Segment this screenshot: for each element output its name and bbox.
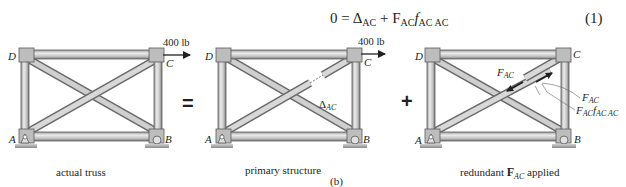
equals-operator: =	[182, 92, 194, 115]
caption-primary-structure: primary structure	[245, 164, 321, 176]
force-label: FAC	[496, 66, 515, 80]
equation-equals: =	[341, 10, 349, 26]
gap-dashed-line	[310, 75, 323, 83]
joint-label-A: A	[204, 133, 212, 145]
equation-number: (1)	[585, 10, 603, 27]
gusset-plate-D	[19, 48, 34, 62]
load-label: 400 lb	[163, 37, 190, 48]
caption-actual-truss: actual truss	[56, 166, 106, 178]
gusset-plate-C	[556, 48, 571, 62]
joint-label-A: A	[414, 134, 422, 146]
bottom-member-AB	[219, 132, 360, 141]
right-member-CB	[352, 50, 360, 141]
actual-truss-figure: 400 lb D C A B	[0, 30, 200, 160]
joint-label-C: C	[364, 56, 372, 68]
joint-label-B: B	[363, 133, 370, 145]
joint-label-D: D	[204, 50, 213, 62]
top-member-DC	[428, 50, 569, 59]
delta-symbol: Δ	[353, 10, 363, 26]
joint-label-B: B	[165, 133, 172, 145]
joint-label-C: C	[573, 48, 581, 60]
right-member-CB	[561, 50, 569, 141]
left-member-DA	[427, 50, 435, 141]
force-subscript: AC	[401, 17, 415, 28]
top-member-DC	[219, 50, 360, 59]
left-member-DA	[218, 50, 226, 141]
joint-label-D: D	[414, 50, 423, 62]
load-label: 400 lb	[358, 36, 385, 47]
gusset-plate-D	[216, 48, 231, 62]
equation-plus: +	[380, 10, 388, 26]
joint-label-C: C	[166, 57, 174, 69]
diagonal-member-AC-cut-lower	[225, 83, 310, 132]
redundant-applied-figure: FAC FAC FACfAC AC D C A B	[390, 30, 626, 160]
force-symbol: F	[392, 10, 400, 26]
gusset-plate-C	[149, 48, 164, 62]
gusset-plate-D	[425, 48, 440, 62]
primary-structure-figure: 400 lb ΔAC D C A B	[195, 30, 395, 160]
deflection-tick-marks	[535, 84, 547, 95]
bottom-member-AB	[428, 132, 569, 141]
diagonal-member-AC-lower	[434, 70, 550, 132]
joint-label-B: B	[574, 133, 581, 145]
bottom-member-AB	[22, 132, 162, 141]
delta-subscript: AC	[362, 17, 376, 28]
left-member-DA	[21, 50, 29, 141]
joint-label-D: D	[7, 50, 16, 62]
equation-lhs: 0	[330, 10, 338, 26]
top-member-DC	[22, 50, 162, 59]
caption-redundant-applied: redundant FAC applied	[460, 165, 559, 181]
flex-subscript: AC AC	[419, 17, 449, 28]
joint-label-A: A	[8, 133, 16, 145]
callout-deflection: FACfAC AC	[575, 104, 619, 118]
figure-label: (b)	[330, 175, 343, 187]
right-member-CB	[154, 50, 162, 141]
gap-label: ΔAC	[319, 98, 337, 112]
compatibility-equation: 0 = ΔAC + FACfAC AC	[330, 10, 448, 28]
gusset-plate-C	[347, 48, 362, 62]
callout-force: FAC	[581, 91, 600, 105]
